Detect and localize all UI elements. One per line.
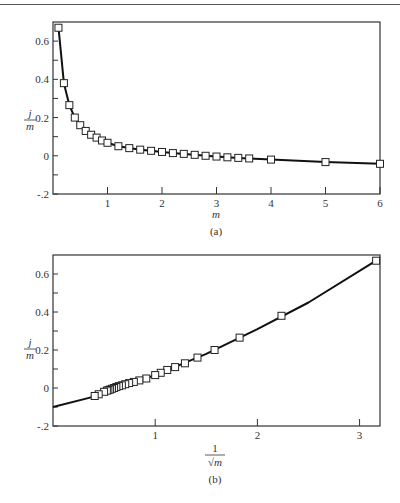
data-point-marker — [159, 148, 166, 155]
data-point-marker — [152, 372, 159, 379]
data-point-marker — [60, 80, 67, 87]
y-tick-label: 0.2 — [35, 112, 49, 124]
caption-b: (b) — [209, 473, 222, 486]
y-axis-label-denominator-a: m — [26, 120, 34, 132]
data-point-marker — [373, 257, 380, 264]
x-tick-label: 2 — [159, 197, 165, 209]
y-tick-label: 0.4 — [35, 73, 49, 85]
data-point-marker — [278, 312, 285, 319]
data-point-marker — [115, 143, 122, 150]
x-axis-ticks-b: 123 — [152, 419, 362, 441]
data-point-marker — [235, 154, 242, 161]
y-tick-label: -.2 — [37, 420, 49, 432]
x-tick-label: 1 — [105, 197, 111, 209]
x-axis-label-a: m — [212, 208, 220, 220]
data-point-marker — [246, 155, 253, 162]
x-tick-label: 4 — [268, 197, 274, 209]
data-point-marker — [191, 151, 198, 158]
y-tick-label: 0.4 — [35, 306, 49, 318]
chart-a: -.200.20.40.6 123456 j m m (a) — [24, 22, 384, 238]
y-axis-label-numerator-b: j — [26, 336, 31, 348]
data-point-marker — [126, 145, 133, 152]
y-tick-label: -.2 — [37, 188, 49, 200]
data-point-marker — [268, 156, 275, 163]
data-point-marker — [104, 139, 111, 146]
y-tick-label: 0 — [44, 382, 50, 394]
data-markers-b — [91, 257, 379, 399]
y-tick-label: 0 — [44, 150, 50, 162]
caption-a: (a) — [210, 225, 223, 238]
data-point-marker — [172, 364, 179, 371]
y-tick-label: 0.2 — [35, 344, 49, 356]
data-point-marker — [169, 150, 176, 157]
data-point-marker — [66, 102, 73, 109]
data-point-marker — [164, 366, 171, 373]
y-tick-label: 0.6 — [35, 35, 49, 47]
x-tick-label: 5 — [323, 197, 329, 209]
data-point-marker — [181, 360, 188, 367]
x-tick-label: 6 — [377, 197, 383, 209]
y-tick-label: 0.6 — [35, 268, 49, 280]
data-point-marker — [180, 150, 187, 157]
x-axis-label-numerator-b: 1 — [212, 442, 218, 454]
data-point-marker — [91, 392, 98, 399]
data-point-marker — [143, 375, 150, 382]
y-axis-label-numerator-a: j — [26, 107, 31, 119]
fit-line-b — [53, 261, 376, 407]
figure: -.200.20.40.6 123456 j m m (a) -.200.20.… — [0, 0, 400, 503]
y-axis-ticks-a: -.200.20.40.6 — [35, 35, 58, 200]
y-axis-label-denominator-b: m — [26, 349, 34, 361]
x-tick-label: 3 — [357, 429, 363, 441]
data-point-marker — [322, 159, 329, 166]
data-markers-a — [55, 24, 384, 167]
data-point-marker — [148, 147, 155, 154]
data-point-marker — [377, 160, 384, 167]
data-point-marker — [224, 154, 231, 161]
data-point-marker — [213, 153, 220, 160]
x-axis-label-denominator-b: √m — [208, 456, 222, 468]
x-tick-label: 2 — [255, 429, 261, 441]
x-axis-ticks-a: 123456 — [105, 187, 384, 209]
data-point-marker — [137, 146, 144, 153]
x-tick-label: 1 — [152, 429, 158, 441]
data-point-marker — [236, 334, 243, 341]
data-point-marker — [211, 347, 218, 354]
data-point-marker — [202, 152, 209, 159]
chart-b: -.200.20.40.6 123 j m 1 √m (b) — [24, 255, 380, 486]
data-point-marker — [71, 114, 78, 121]
data-point-marker — [55, 24, 62, 31]
plot-frame-b — [53, 255, 380, 426]
plot-frame-a — [53, 22, 380, 194]
data-point-marker — [194, 354, 201, 361]
